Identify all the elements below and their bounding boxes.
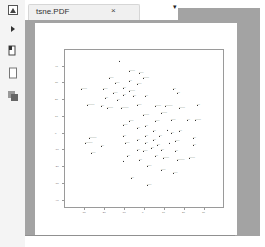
data-point: ~~~ (137, 104, 142, 107)
y-tick-mark (62, 166, 64, 167)
y-tick-label: -30 (55, 182, 59, 185)
data-point: ~~~~ (195, 119, 201, 122)
data-point: ~~~~ (143, 114, 149, 117)
data-point: ~~~ (143, 150, 148, 153)
y-tick-mark (62, 99, 64, 100)
app-logo-icon[interactable] (0, 3, 25, 17)
y-tick-mark (62, 116, 64, 117)
data-point: ~~~~ (129, 90, 135, 93)
data-point: ~~~~ (143, 77, 149, 80)
y-tick-label: -10 (55, 148, 59, 151)
data-point: ~~ (117, 99, 120, 102)
data-point: ~~ (137, 127, 140, 130)
data-point: ~~ (137, 149, 140, 152)
data-point: ~~ (105, 97, 108, 100)
data-point: ~~ (145, 95, 148, 98)
data-point: ~~ (159, 135, 162, 138)
dropdown-arrow-icon[interactable]: ▾ (173, 3, 177, 11)
x-tick-label: 30 (202, 211, 205, 214)
x-tick-label: 10 (162, 211, 165, 214)
data-point: · (167, 129, 168, 132)
data-point: ~~ (171, 132, 174, 135)
y-tick-label: 20 (55, 98, 58, 101)
data-point: ~~ (153, 130, 156, 133)
expand-arrow-icon[interactable] (0, 22, 25, 36)
data-point: ~~ (145, 125, 148, 128)
data-point: ~~~ (139, 72, 144, 75)
y-tick-label: 10 (55, 115, 58, 118)
data-point: · (123, 160, 124, 163)
data-point: ~~ (101, 105, 104, 108)
data-point: ~~~ (171, 119, 176, 122)
data-point: ~~~ (129, 120, 134, 123)
data-point: ~~ (193, 144, 196, 147)
x-tick-mark (104, 208, 105, 210)
data-point: ~~~ (115, 82, 120, 85)
y-tick-label: 0 (55, 132, 56, 135)
single-page-icon[interactable] (0, 66, 25, 80)
data-point: ~~~~ (161, 112, 167, 115)
data-point: ~~ (173, 88, 176, 91)
page-view-icon[interactable] (0, 44, 25, 58)
data-point: ~~ (175, 150, 178, 153)
data-point: ~~ (161, 149, 164, 152)
data-point: ~~ (193, 137, 196, 140)
data-point: ~~ (131, 177, 134, 180)
data-point: ~~~~ (155, 105, 161, 108)
tab-title: tsne.PDF (36, 7, 69, 16)
data-point: ~~ (177, 92, 180, 95)
y-tick-mark (62, 82, 64, 83)
data-point: ~~ (179, 130, 182, 133)
x-tick-mark (144, 208, 145, 210)
data-point: ~~ (127, 155, 130, 158)
y-tick-mark (62, 183, 64, 184)
data-point: ~~~ (155, 120, 160, 123)
x-tick-label: 20 (182, 211, 185, 214)
x-tick-label: 0 (142, 211, 143, 214)
x-tick-mark (124, 208, 125, 210)
x-tick-label: -20 (102, 211, 106, 214)
data-point: ~~ (151, 147, 154, 150)
data-point: ~~ (145, 135, 148, 138)
close-icon[interactable]: × (111, 6, 116, 15)
x-tick-mark (204, 208, 205, 210)
data-point: ~~~ (91, 152, 96, 155)
viewer-background-top (178, 8, 260, 20)
next-page-area (25, 236, 265, 247)
y-tick-mark (62, 133, 64, 134)
data-point: · (119, 60, 120, 63)
data-point: ~~ (197, 104, 200, 107)
data-point: ~~ (123, 94, 126, 97)
y-tick-label: 40 (55, 65, 58, 68)
data-point: ~~~ (147, 165, 152, 168)
y-tick-mark (62, 149, 64, 150)
data-point: · (169, 142, 170, 145)
data-point: ~~~ (123, 124, 128, 127)
data-point: ~~~ (103, 88, 108, 91)
y-tick-label: -40 (55, 199, 59, 202)
data-point: ~~~~ (189, 157, 195, 160)
data-point: ~~ (133, 95, 136, 98)
data-point: ~~~ (161, 169, 166, 172)
data-point: ~~ (155, 155, 158, 158)
y-tick-mark (62, 66, 64, 67)
data-point: ~~ (123, 135, 126, 138)
x-tick-mark (84, 208, 85, 210)
data-point: ~~ (123, 87, 126, 90)
y-tick-label: -20 (55, 165, 59, 168)
data-point: ~~ (137, 139, 140, 142)
data-point: ~~ (129, 80, 132, 83)
data-point: ~~~~~ (165, 105, 173, 108)
document-tab[interactable]: tsne.PDF × (28, 4, 140, 21)
y-tick-mark (62, 200, 64, 201)
data-point: ~~ (101, 145, 104, 148)
thumbnails-icon[interactable] (0, 89, 25, 103)
data-point: ~~ (157, 144, 160, 147)
data-point: ~~ (139, 159, 142, 162)
data-point: ~~~~ (129, 70, 135, 73)
data-point: ~~~~~ (121, 107, 129, 110)
data-point: ~~ (153, 139, 156, 142)
left-toolbar (0, 0, 26, 247)
data-point: ~~~ (113, 92, 118, 95)
x-tick-mark (184, 208, 185, 210)
